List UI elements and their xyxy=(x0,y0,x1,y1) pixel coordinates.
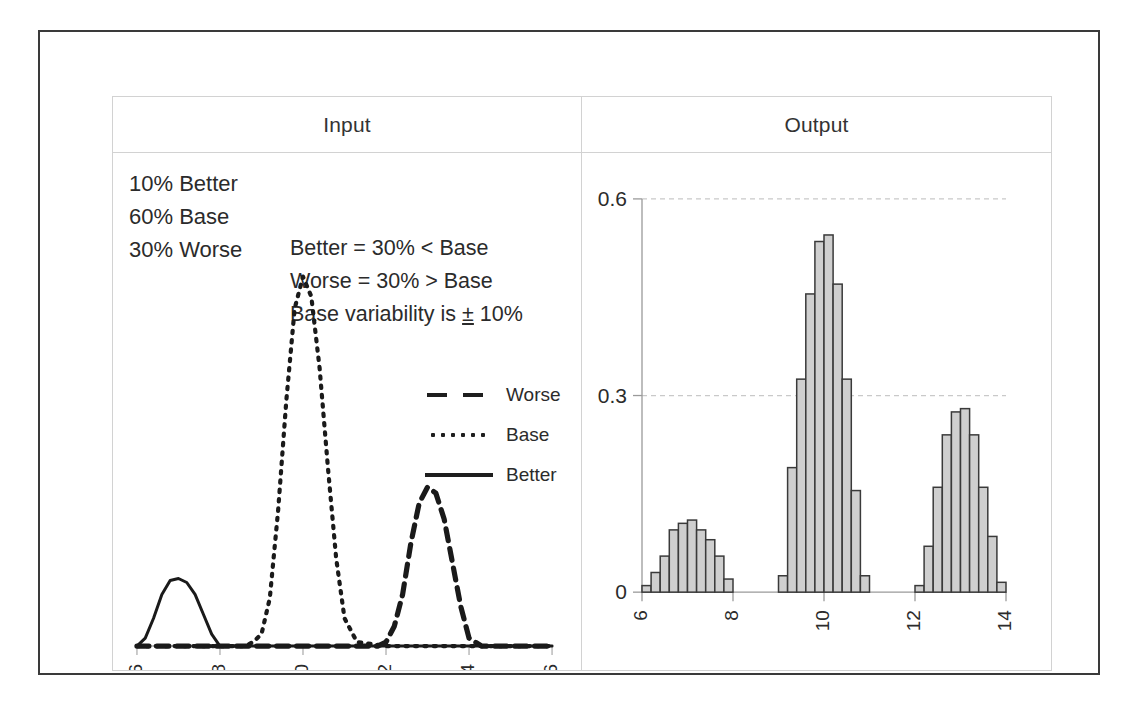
output-histogram-chart: 00.30.668101214 xyxy=(582,153,1051,670)
svg-text:8: 8 xyxy=(721,610,742,621)
svg-text:16: 16 xyxy=(540,664,561,670)
svg-text:0: 0 xyxy=(615,580,627,603)
svg-text:6: 6 xyxy=(125,664,146,670)
svg-text:6: 6 xyxy=(630,610,651,621)
input-line-chart: 6810121416 xyxy=(113,153,581,670)
svg-text:10: 10 xyxy=(812,610,833,631)
figure-page: Input Output 10% Better 60% Base 30% Wor… xyxy=(0,0,1139,706)
input-panel-cell: 10% Better 60% Base 30% Worse Better = 3… xyxy=(113,153,582,670)
figure-outer-frame: Input Output 10% Better 60% Base 30% Wor… xyxy=(38,30,1100,675)
svg-text:0.3: 0.3 xyxy=(598,384,627,407)
table-header-row: Input Output xyxy=(112,96,1052,152)
svg-text:12: 12 xyxy=(903,610,924,631)
svg-text:10: 10 xyxy=(291,664,312,670)
column-header-output: Output xyxy=(582,97,1051,152)
column-header-input-label: Input xyxy=(323,113,371,137)
svg-text:14: 14 xyxy=(994,610,1015,631)
svg-text:0.6: 0.6 xyxy=(598,187,627,210)
svg-text:14: 14 xyxy=(457,664,478,670)
column-header-output-label: Output xyxy=(784,113,848,137)
output-panel-cell: 00.30.668101214 xyxy=(582,153,1051,670)
svg-text:8: 8 xyxy=(208,664,229,670)
svg-text:12: 12 xyxy=(374,664,395,670)
column-header-input: Input xyxy=(113,97,582,152)
comparison-table: Input Output 10% Better 60% Base 30% Wor… xyxy=(112,96,1052,671)
table-body-row: 10% Better 60% Base 30% Worse Better = 3… xyxy=(112,152,1052,671)
